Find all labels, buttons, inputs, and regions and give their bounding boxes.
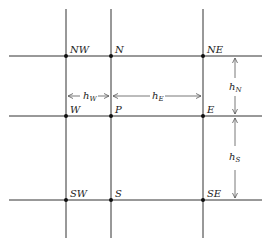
- label-p: P: [114, 104, 122, 115]
- hs-sub: S: [235, 156, 240, 164]
- node-ne: [201, 54, 205, 58]
- he-sub: E: [157, 95, 163, 103]
- hn-sub: N: [234, 86, 242, 94]
- label-se: SE: [207, 188, 222, 199]
- node-e: [201, 114, 205, 118]
- grid-stencil-diagram: NW N NE W P E SW S SE hW hE hN hS: [0, 0, 269, 246]
- label-nw: NW: [69, 44, 90, 55]
- label-sw: SW: [70, 188, 88, 199]
- node-s: [109, 198, 113, 202]
- node-w: [64, 114, 68, 118]
- node-sw: [64, 198, 68, 202]
- label-s: S: [115, 188, 122, 199]
- dimension-hn: hN: [229, 58, 242, 114]
- svg-text:hW: hW: [83, 90, 97, 103]
- label-ne: NE: [206, 44, 224, 55]
- hw-sub: W: [89, 95, 97, 103]
- svg-text:hS: hS: [229, 151, 240, 164]
- label-e: E: [206, 104, 215, 115]
- node-p: [109, 114, 113, 118]
- dimension-hs: hS: [229, 118, 240, 198]
- dimension-he: hE: [113, 90, 201, 103]
- label-w: W: [70, 104, 81, 115]
- node-nw: [64, 54, 68, 58]
- diagram-svg: NW N NE W P E SW S SE hW hE hN hS: [0, 0, 269, 246]
- svg-text:hE: hE: [152, 90, 164, 103]
- node-n: [109, 54, 113, 58]
- dimension-hw: hW: [68, 90, 109, 103]
- svg-text:hN: hN: [229, 81, 242, 94]
- node-se: [201, 198, 205, 202]
- label-n: N: [114, 44, 125, 55]
